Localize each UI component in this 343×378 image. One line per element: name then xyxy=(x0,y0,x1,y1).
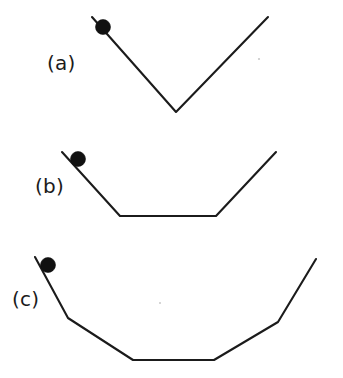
panel-b: (b) xyxy=(35,152,276,217)
panel-label-b: (b) xyxy=(35,174,64,198)
panel-label-a: (a) xyxy=(47,51,75,75)
scan-speck xyxy=(258,58,260,60)
panel-c: (c) xyxy=(12,257,316,360)
ball-a xyxy=(96,20,111,35)
ball-b xyxy=(71,152,86,167)
figure-container: (a) (b) (c) xyxy=(0,0,343,378)
track-path-b xyxy=(62,152,276,216)
scan-speck xyxy=(159,302,161,304)
panel-label-c: (c) xyxy=(12,287,39,311)
panel-a: (a) xyxy=(47,17,268,112)
track-path-a xyxy=(92,17,268,112)
track-path-c xyxy=(35,257,316,360)
figure-canvas: (a) (b) (c) xyxy=(0,0,343,378)
ball-c xyxy=(41,258,56,273)
